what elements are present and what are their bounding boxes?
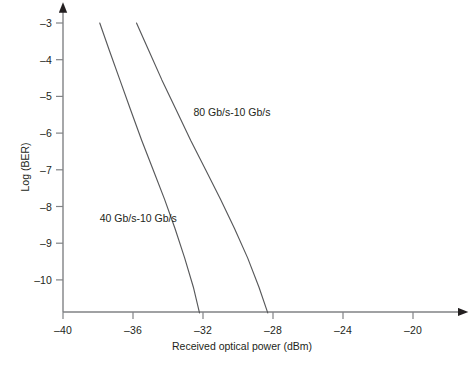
x-tick-label: –28 bbox=[264, 324, 282, 336]
y-tick-label: –6 bbox=[12, 127, 52, 139]
y-tick-label: –9 bbox=[12, 237, 52, 249]
chart-axes bbox=[63, 12, 459, 312]
y-tick-label: –3 bbox=[12, 17, 52, 29]
y-tick-label: –10 bbox=[12, 274, 52, 286]
y-axis-title: Log (BER) bbox=[19, 142, 31, 191]
y-tick-label: –8 bbox=[12, 201, 52, 213]
x-tick-label: –36 bbox=[124, 324, 142, 336]
series-label-40gbs: 40 Gb/s-10 Gb/s bbox=[100, 212, 177, 224]
chart-figure: –40–36–32–28–24–20 –3–4–5–6–7–8–9–10 Rec… bbox=[0, 0, 471, 371]
series-curve-80gbs bbox=[137, 23, 268, 313]
x-tick-label: –20 bbox=[404, 324, 422, 336]
chart-plot-area bbox=[0, 0, 471, 371]
chart-tick-marks bbox=[56, 23, 413, 319]
y-tick-label: –4 bbox=[12, 54, 52, 66]
y-tick-label: –5 bbox=[12, 90, 52, 102]
y-tick-label: –7 bbox=[12, 164, 52, 176]
x-tick-label: –40 bbox=[54, 324, 72, 336]
x-axis-title: Received optical power (dBm) bbox=[172, 340, 312, 352]
series-label-80gbs: 80 Gb/s-10 Gb/s bbox=[193, 106, 270, 118]
chart-series-lines bbox=[100, 23, 268, 313]
series-curve-40gbs bbox=[100, 23, 200, 313]
x-tick-label: –24 bbox=[334, 324, 352, 336]
x-tick-label: –32 bbox=[194, 324, 212, 336]
